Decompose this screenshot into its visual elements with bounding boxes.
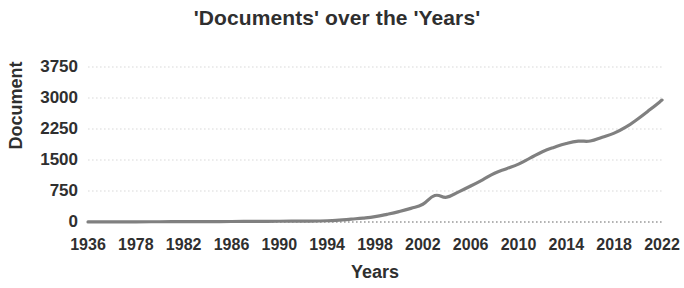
y-tick-label: 750 <box>14 182 78 199</box>
chart-svg <box>88 67 662 222</box>
y-tick-label: 3750 <box>14 58 78 75</box>
chart-title: 'Documents' over the 'Years' <box>0 6 674 30</box>
plot-area <box>88 67 662 222</box>
y-tick-label: 3000 <box>14 89 78 106</box>
y-tick-label: 2250 <box>14 120 78 137</box>
gridlines <box>88 67 662 222</box>
x-axis-title: Years <box>88 262 662 283</box>
x-axis-tick-labels: 1936197819821986199019941998200220062010… <box>0 236 674 258</box>
y-tick-label: 0 <box>14 213 78 230</box>
data-series-line <box>88 100 662 222</box>
x-tick-label: 2022 <box>632 236 684 254</box>
y-tick-label: 1500 <box>14 151 78 168</box>
